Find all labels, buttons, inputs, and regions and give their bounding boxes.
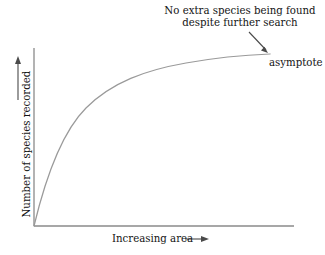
annotation-line-2: despite further search xyxy=(160,17,320,29)
callout-arrow xyxy=(249,32,268,53)
asymptote-label: asymptote xyxy=(269,58,323,68)
annotation-line-1: No extra species being found xyxy=(160,5,320,17)
species-accumulation-curve xyxy=(34,54,270,226)
x-axis-label: Increasing area xyxy=(112,234,193,244)
y-axis-label: Number of species recorded xyxy=(22,68,32,220)
annotation-callout-text: No extra species being found despite fur… xyxy=(160,5,320,28)
chart-canvas xyxy=(0,0,325,255)
species-area-curve-figure: No extra species being found despite fur… xyxy=(0,0,325,255)
